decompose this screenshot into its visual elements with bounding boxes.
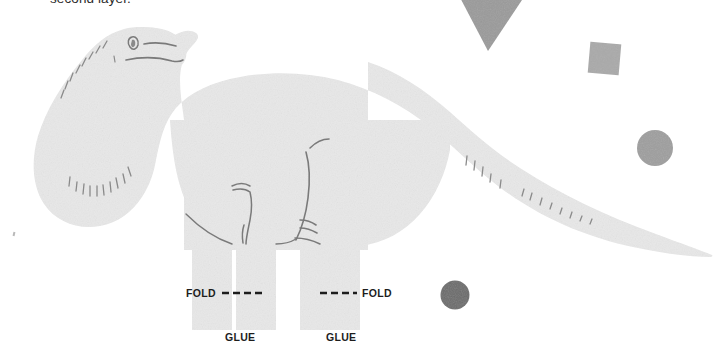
fold-label-right: FOLD	[362, 287, 392, 299]
circle-marker-dark	[441, 281, 470, 310]
circle-marker-light	[637, 130, 673, 166]
page-canvas: second layer.	[0, 0, 720, 351]
square-marker	[588, 42, 622, 76]
triangle-marker	[455, 0, 530, 51]
illustration-canvas	[0, 0, 720, 351]
fold-label-left: FOLD	[186, 287, 216, 299]
glue-label-right: GLUE	[326, 331, 356, 343]
glue-label-left: GLUE	[225, 331, 255, 343]
